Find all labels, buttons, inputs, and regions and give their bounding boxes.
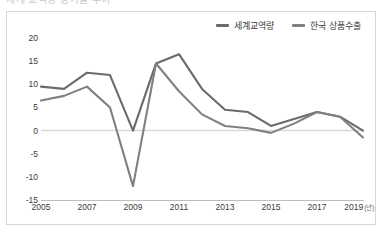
chart-legend: 세계교역량한국 상품수출 [7, 19, 377, 32]
x-axis-tick-label: 2011 [170, 202, 188, 212]
series-line [41, 63, 363, 186]
x-axis-tick-value: 2007 [78, 202, 97, 212]
x-axis: 20052007200920112013201520172019(년) [41, 202, 363, 218]
x-axis-tick-label: 2007 [78, 202, 97, 212]
x-axis-tick-value: 2019 [344, 202, 363, 212]
legend-item[interactable]: 한국 상품수출 [292, 19, 361, 32]
legend-item[interactable]: 세계교역량 [216, 19, 274, 32]
x-axis-tick-label: 2017 [308, 202, 327, 212]
clipped-header-text: 세계 교역량 증가율 추이 [0, 0, 383, 11]
x-axis-tick-value: 2017 [308, 202, 327, 212]
x-axis-tick-label: 2015 [262, 202, 281, 212]
legend-swatch-icon [292, 24, 305, 27]
x-axis-tick-value: 2005 [32, 202, 51, 212]
chart-frame: 세계교역량한국 상품수출 20151050-5-10-15 2005200720… [6, 11, 376, 225]
x-axis-tick-label: 2013 [216, 202, 235, 212]
y-axis-tick-label: 10 [8, 79, 38, 89]
y-axis-tick-label: 0 [8, 126, 38, 136]
x-axis-tick-label: 2005 [32, 202, 51, 212]
y-axis-tick-label: 20 [8, 33, 38, 43]
x-axis-unit-label: (년) [363, 204, 374, 211]
legend-swatch-icon [216, 24, 229, 27]
y-axis-tick-label: -10 [8, 172, 38, 182]
y-axis-tick-label: 5 [8, 102, 38, 112]
y-axis: 20151050-5-10-15 [7, 38, 38, 200]
series-line [41, 54, 363, 130]
x-axis-tick-value: 2011 [170, 202, 188, 212]
plot-area [41, 38, 363, 200]
x-axis-line [41, 200, 364, 201]
y-axis-tick-label: -5 [8, 149, 38, 159]
chart-screenshot: 세계 교역량 증가율 추이 세계교역량한국 상품수출 20151050-5-10… [0, 0, 383, 232]
line-chart-svg [41, 38, 363, 200]
legend-label: 한국 상품수출 [310, 19, 361, 32]
x-axis-tick-value: 2009 [124, 202, 143, 212]
legend-label: 세계교역량 [234, 19, 274, 32]
x-axis-tick-value: 2015 [262, 202, 281, 212]
x-axis-tick-label: 2009 [124, 202, 143, 212]
x-axis-tick-value: 2013 [216, 202, 235, 212]
y-axis-tick-label: 15 [8, 56, 38, 66]
x-axis-tick-label: 2019(년) [344, 202, 374, 212]
clipped-header-label: 세계 교역량 증가율 추이 [0, 0, 111, 5]
